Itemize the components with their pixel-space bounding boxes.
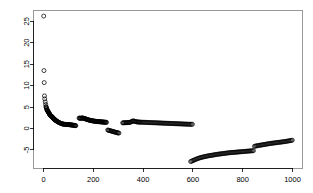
- y-axis: -50510152025: [22, 17, 34, 153]
- data-points-layer: [42, 14, 295, 163]
- x-tick-label: 0: [41, 175, 45, 184]
- y-tick-label: 10: [22, 81, 31, 89]
- data-point: [42, 14, 46, 18]
- x-tick-label: 800: [236, 175, 249, 184]
- data-point: [42, 69, 46, 73]
- x-tick-label: 400: [137, 175, 150, 184]
- y-tick-label: 0: [22, 126, 31, 130]
- plot-canvas: -50510152025 02004006008001000: [0, 0, 313, 193]
- y-tick-label: 20: [22, 39, 31, 47]
- scatter-plot-figure: -50510152025 02004006008001000: [0, 0, 313, 193]
- y-tick-label: 15: [22, 60, 31, 68]
- y-tick-label: 5: [22, 105, 31, 109]
- x-tick-label: 600: [187, 175, 200, 184]
- y-tick-label: -5: [22, 147, 31, 154]
- x-tick-label: 1000: [284, 175, 301, 184]
- x-axis: 02004006008001000: [41, 168, 301, 184]
- data-point: [42, 81, 46, 85]
- x-tick-label: 200: [87, 175, 100, 184]
- y-tick-label: 25: [22, 17, 31, 25]
